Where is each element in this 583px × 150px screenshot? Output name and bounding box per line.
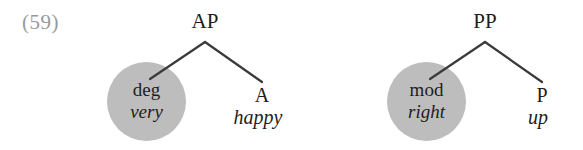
category-label-p: P [507, 84, 577, 107]
root-node-label-pp: PP [455, 9, 515, 34]
terminal-word-up: up [493, 106, 583, 129]
category-label-deg: deg [107, 79, 186, 101]
syntax-tree-figure: (59) AP deg very A happy PP mod right P … [0, 0, 583, 150]
category-label-mod: mod [387, 79, 466, 101]
terminal-word-very: very [107, 101, 186, 123]
syntax-tree-pp: PP mod right P up [280, 0, 580, 150]
terminal-word-right: right [387, 101, 466, 123]
root-node-label-ap: AP [175, 9, 235, 34]
syntax-tree-ap: AP deg very A happy [0, 0, 300, 150]
